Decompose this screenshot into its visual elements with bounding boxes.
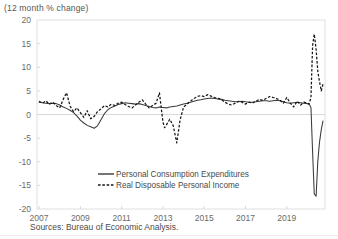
x-tick-label: 2019 bbox=[277, 213, 296, 223]
y-tick-label: 5 bbox=[26, 86, 31, 96]
y-tick-label: 15 bbox=[22, 39, 32, 49]
y-tick-label: 0 bbox=[26, 110, 31, 120]
x-tick-label: 2015 bbox=[195, 213, 214, 223]
x-tick-label: 2017 bbox=[236, 213, 255, 223]
y-tick-label: 20 bbox=[22, 15, 32, 25]
legend-label: Real Disposable Personal Income bbox=[116, 181, 240, 190]
y-tick-label: -5 bbox=[23, 133, 31, 143]
source-note: Sources: Bureau of Economic Analysis. bbox=[30, 222, 178, 232]
y-tick-label: 10 bbox=[22, 62, 32, 72]
legend-label: Personal Consumption Expenditures bbox=[116, 170, 249, 179]
y-tick-label: -10 bbox=[19, 157, 32, 167]
chart-figure: (12 month % change) 20151050-5-10-15-20 … bbox=[0, 0, 338, 239]
y-axis-tick-labels: 20151050-5-10-15-20 bbox=[19, 15, 32, 214]
chart-plot-svg: 20151050-5-10-15-20 20072009201120132015… bbox=[0, 0, 338, 239]
chart-legend: Personal Consumption ExpendituresReal Di… bbox=[98, 170, 249, 190]
series-line-real-disposable-personal-income bbox=[39, 34, 323, 143]
y-tick-label: -15 bbox=[19, 180, 32, 190]
